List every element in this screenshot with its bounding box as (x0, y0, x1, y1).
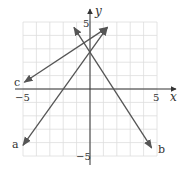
y-axis-label: y (94, 4, 102, 18)
axes (15, 9, 176, 165)
x-axis-label: x (170, 90, 177, 104)
line-label-a: a (12, 138, 19, 151)
line-label-b: b (158, 143, 165, 156)
line-label-c: c (14, 76, 20, 89)
line-b (74, 27, 152, 148)
x-tick-max: 5 (153, 92, 159, 103)
line-a (23, 27, 107, 145)
coordinate-plane: x y −5 5 5 −5 a b c (0, 0, 186, 169)
y-tick-min: −5 (76, 151, 91, 162)
plotted-lines (23, 27, 152, 148)
y-tick-max: 5 (83, 18, 89, 29)
x-tick-min: −5 (15, 92, 30, 103)
